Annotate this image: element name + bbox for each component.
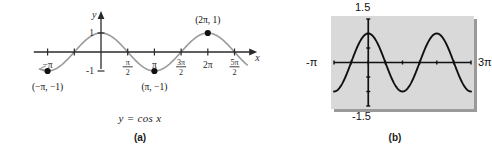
y-tick-label-one: 1 <box>89 28 94 38</box>
point-neg-pi-label: (−π, −1) <box>32 82 63 93</box>
point-neg-pi <box>44 68 50 74</box>
calculator-screen-plot <box>331 16 474 109</box>
screen-bottom-value: -1.5 <box>352 110 371 122</box>
fraction-numerator: π <box>126 58 130 67</box>
fraction-denominator: 2 <box>126 68 130 77</box>
y-axis-label: y <box>91 9 97 20</box>
x-tick-label-five-pi-over-2: 5π2 <box>230 58 240 77</box>
point-pi <box>151 68 157 74</box>
x-tick-label-two-pi: 2π <box>203 60 213 70</box>
fraction-numerator: 5π <box>230 58 238 67</box>
panel-b-label: (b) <box>340 132 450 143</box>
point-pi-label: (π, −1) <box>141 82 167 93</box>
fraction-numerator: 3π <box>177 58 185 67</box>
panel-b-calculator: 1.5 -1.5 -π 3π (b) <box>300 0 492 155</box>
point-two-pi-label: (2π, 1) <box>195 15 220 26</box>
y-tick-label-neg-one: -1 <box>86 66 94 76</box>
fraction-denominator: 2 <box>179 68 183 77</box>
y-axis-arrow <box>98 11 105 19</box>
screen-right-value: 3π <box>478 56 492 68</box>
x-axis-label: x <box>254 52 260 63</box>
panel-a-svg: xy−ππ2π3π22π5π21-1(−π, −1)(π, −1)(2π, 1) <box>0 0 300 112</box>
x-tick-label-three-pi-over-2: 3π2 <box>176 58 186 77</box>
panel-a-graph: xy−ππ2π3π22π5π21-1(−π, −1)(π, −1)(2π, 1)… <box>0 0 300 155</box>
fraction-denominator: 2 <box>233 68 237 77</box>
cosine-graph-figure: xy−ππ2π3π22π5π21-1(−π, −1)(π, −1)(2π, 1)… <box>0 0 492 155</box>
x-tick-label-pi-over-2: π2 <box>123 58 133 77</box>
panel-a-label: (a) <box>60 132 220 143</box>
panel-a-equation-caption: y = cos x <box>60 112 220 124</box>
screen-top-value: 1.5 <box>355 1 370 13</box>
point-two-pi <box>205 30 211 36</box>
screen-left-value: -π <box>306 56 317 68</box>
